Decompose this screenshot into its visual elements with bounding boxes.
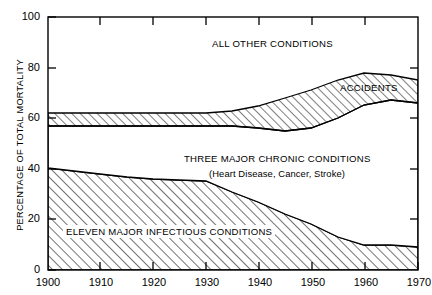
annotation-all-other-conditions: ALL OTHER CONDITIONS [212, 38, 333, 49]
annotation-three-major-chronic-conditions: THREE MAJOR CHRONIC CONDITIONS [181, 152, 374, 165]
annotation-accidents: ACCIDENTS [340, 82, 398, 93]
annotation-eleven-major-infectious-conditions: ELEVEN MAJOR INFECTIOUS CONDITIONS [63, 225, 275, 238]
chart-figure: PERCENTAGE OF TOTAL MORTALITY 100 80 60 … [0, 0, 432, 295]
annotation-chronic-conditions-sublabel: (Heart Disease, Cancer, Stroke) [206, 167, 348, 180]
